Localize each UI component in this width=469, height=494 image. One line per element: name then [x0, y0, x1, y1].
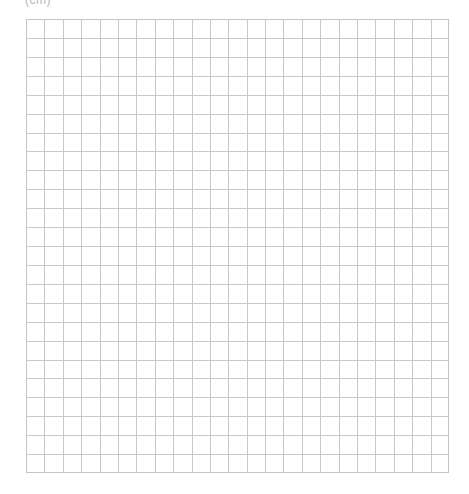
grid-lines [26, 19, 449, 473]
unit-label: (cm) [25, 0, 51, 7]
graph-paper-grid [26, 19, 449, 473]
